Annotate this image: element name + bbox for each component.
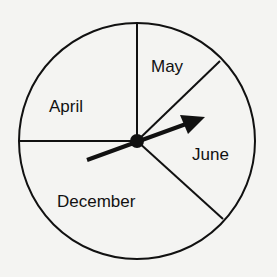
section-label-december: December — [57, 192, 136, 211]
spinner-hub — [130, 134, 144, 148]
section-label-june: June — [192, 145, 229, 164]
spinner-diagram: April May June December — [0, 0, 277, 277]
section-label-april: April — [49, 97, 83, 116]
spinner-arrow[interactable] — [87, 115, 205, 160]
section-label-may: May — [151, 57, 184, 76]
